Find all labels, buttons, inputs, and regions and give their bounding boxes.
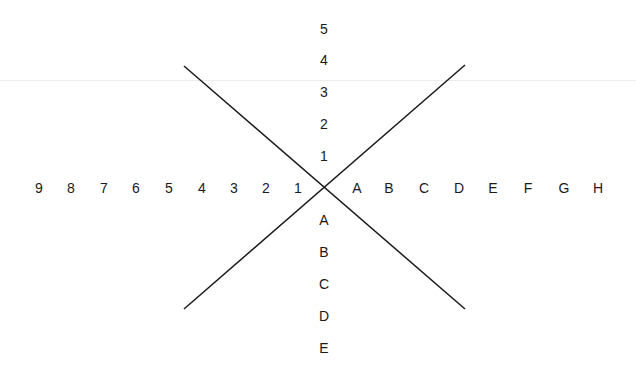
right-scale-label: A [352, 181, 361, 195]
right-scale-label: E [488, 181, 497, 195]
right-scale-label: C [419, 181, 429, 195]
right-scale-label: H [593, 181, 603, 195]
left-scale-label: 1 [294, 181, 302, 195]
right-scale-label: B [384, 181, 393, 195]
bottom-scale-label: D [319, 309, 329, 323]
right-scale-label: G [559, 181, 570, 195]
left-scale-label: 2 [262, 181, 270, 195]
top-scale-label: 1 [320, 149, 328, 163]
top-scale-label: 5 [320, 22, 328, 36]
top-scale-label: 4 [320, 53, 328, 67]
left-scale-label: 9 [35, 181, 43, 195]
bottom-scale-label: E [319, 341, 328, 355]
left-scale-label: 8 [67, 181, 75, 195]
left-scale-label: 6 [132, 181, 140, 195]
left-scale-label: 4 [198, 181, 206, 195]
left-scale-label: 3 [230, 181, 238, 195]
bottom-scale-label: A [319, 213, 328, 227]
left-scale-label: 5 [165, 181, 173, 195]
left-scale-label: 7 [100, 181, 108, 195]
top-scale-label: 2 [320, 117, 328, 131]
bottom-scale-label: C [319, 277, 329, 291]
top-scale-label: 3 [320, 85, 328, 99]
bottom-scale-label: B [319, 245, 328, 259]
right-scale-label: F [524, 181, 533, 195]
right-scale-label: D [454, 181, 464, 195]
